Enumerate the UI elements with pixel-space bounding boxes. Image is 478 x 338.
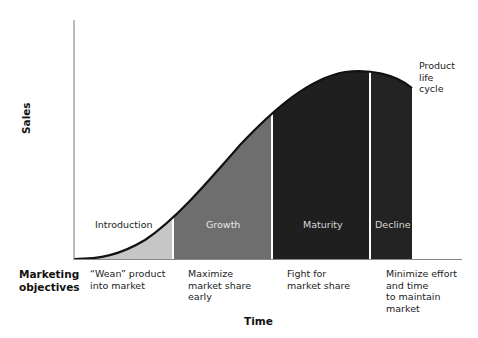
- stage-label-maturity: Maturity: [303, 219, 343, 230]
- objective-line: and time: [386, 280, 457, 292]
- x-axis-label: Time: [244, 315, 273, 328]
- curve-label: Product life cycle: [419, 60, 455, 95]
- objective-introduction: “Wean” product into market: [90, 268, 165, 291]
- stage-label-decline: Decline: [375, 219, 411, 230]
- objective-line: early: [188, 291, 251, 303]
- stage-label-growth: Growth: [206, 219, 240, 230]
- marketing-objectives-heading: Marketing objectives: [19, 268, 80, 293]
- objective-growth: Maximize market share early: [188, 268, 251, 303]
- heading-line: objectives: [19, 281, 80, 294]
- heading-line: Marketing: [19, 268, 80, 281]
- objective-line: market share: [188, 280, 251, 292]
- objective-line: market: [386, 303, 457, 315]
- curve-label-line: Product: [419, 60, 455, 72]
- objective-line: Minimize effort: [386, 268, 457, 280]
- objective-line: Maximize: [188, 268, 251, 280]
- objective-decline: Minimize effort and time to maintain mar…: [386, 268, 457, 314]
- curve-label-line: cycle: [419, 83, 455, 95]
- curve-label-line: life: [419, 72, 455, 84]
- y-axis-label: Sales: [20, 102, 32, 134]
- objective-line: to maintain: [386, 291, 457, 303]
- objective-line: “Wean” product: [90, 268, 165, 280]
- objective-line: market share: [287, 280, 350, 292]
- stage-label-introduction: Introduction: [95, 219, 153, 230]
- objective-line: Fight for: [287, 268, 350, 280]
- objective-line: into market: [90, 280, 165, 292]
- objective-maturity: Fight for market share: [287, 268, 350, 291]
